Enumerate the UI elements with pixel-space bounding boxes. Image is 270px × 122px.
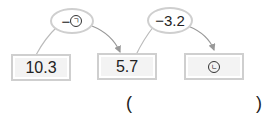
circled-nieun-icon: ㄴ — [208, 61, 220, 73]
operation-label-2: −3.2 — [155, 12, 185, 29]
circled-giyeok-icon: ㄱ — [70, 15, 82, 27]
middle-value: 5.7 — [116, 58, 138, 76]
answer-blank[interactable] — [136, 94, 254, 114]
operation-oval-2: −3.2 — [147, 7, 193, 34]
result-box: ㄴ — [184, 53, 244, 80]
middle-box: 5.7 — [97, 53, 157, 80]
start-value: 10.3 — [25, 59, 56, 77]
operation-oval-1: − ㄱ — [50, 8, 94, 34]
operation-label-1: − — [62, 13, 71, 30]
start-box: 10.3 — [11, 54, 71, 81]
answer-open-paren: ( — [126, 93, 132, 114]
answer-close-paren: ) — [256, 93, 262, 114]
